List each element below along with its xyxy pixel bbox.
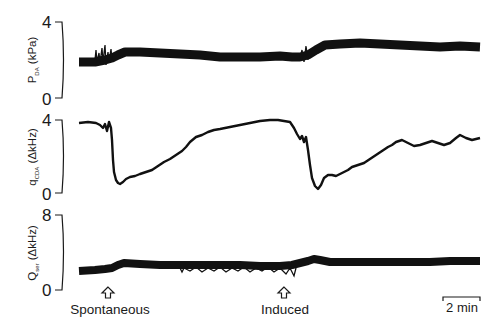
panel-q-ser: 8 0 Qser (ΔkHz) bbox=[26, 206, 480, 300]
event-induced: Induced bbox=[261, 287, 309, 317]
y-tick-max: 4 bbox=[42, 13, 51, 32]
trace-q-ser bbox=[79, 259, 480, 276]
y-axis-bracket bbox=[55, 120, 64, 193]
time-scale-bar: 2 min bbox=[443, 297, 480, 315]
up-arrow-outline-icon bbox=[278, 287, 290, 298]
panel-q-cda: 4 0 qCDA (ΔkHz) bbox=[26, 111, 480, 204]
trace-p-da bbox=[79, 43, 480, 65]
y-axis-bracket bbox=[55, 22, 64, 98]
y-tick-max: 4 bbox=[42, 111, 51, 130]
panel-p-da: 4 0 PDA (kPa) bbox=[26, 13, 480, 109]
scale-bar-label: 2 min bbox=[446, 300, 478, 315]
y-tick-max: 8 bbox=[42, 206, 51, 225]
trace-q-cda bbox=[79, 120, 480, 189]
figure: 4 0 PDA (kPa) 4 0 qCDA (ΔkHz) 8 0 Qser (… bbox=[0, 0, 497, 335]
event-label: Induced bbox=[261, 302, 309, 317]
y-tick-min: 0 bbox=[42, 185, 51, 204]
event-spontaneous: Spontaneous bbox=[70, 287, 150, 317]
y-axis-label: Qser (ΔkHz) bbox=[26, 225, 40, 281]
y-axis-label: qCDA (ΔkHz) bbox=[26, 128, 40, 186]
y-axis-label: PDA (kPa) bbox=[26, 36, 40, 83]
y-tick-min: 0 bbox=[42, 90, 51, 109]
event-label: Spontaneous bbox=[70, 302, 150, 317]
y-axis-bracket bbox=[55, 215, 64, 290]
y-tick-min: 0 bbox=[42, 281, 51, 300]
up-arrow-outline-icon bbox=[102, 287, 114, 298]
